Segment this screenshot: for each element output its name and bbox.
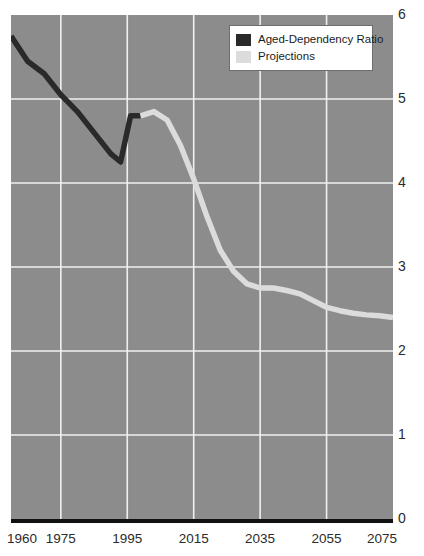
- series-lines: [11, 15, 393, 519]
- y-axis-labels: 0123456: [398, 0, 424, 556]
- x-axis-tick-label: 1960: [7, 532, 37, 546]
- x-axis-tick-label: 2015: [179, 532, 209, 546]
- x-axis-tick-label: 1975: [46, 532, 76, 546]
- y-axis-tick-label: 6: [398, 7, 418, 21]
- y-axis-tick-label: 0: [398, 511, 418, 525]
- legend-item-label: Aged-Dependency Ratio: [258, 34, 383, 46]
- x-axis-baseline: [11, 519, 393, 523]
- x-axis-tick-label: 2075: [367, 532, 397, 546]
- x-axis-tick-label: 2055: [312, 532, 342, 546]
- legend-item-aged-dependency-ratio: Aged-Dependency Ratio: [236, 31, 365, 48]
- x-axis-tick-label: 2035: [245, 532, 275, 546]
- y-axis-tick-label: 2: [398, 343, 418, 357]
- legend-swatch-icon: [236, 34, 251, 46]
- x-axis-labels: 1960197519952015203520552075: [0, 532, 424, 556]
- y-axis-tick-label: 3: [398, 259, 418, 273]
- legend-item-projections: Projections: [236, 48, 365, 65]
- x-axis-tick-label: 1995: [112, 532, 142, 546]
- legend-swatch-icon: [236, 51, 251, 63]
- chart-container: 0123456 1960197519952015203520552075 Age…: [0, 0, 424, 556]
- y-axis-tick-label: 1: [398, 427, 418, 441]
- y-axis-tick-label: 4: [398, 175, 418, 189]
- plot-area: [11, 15, 393, 519]
- chart-legend: Aged-Dependency Ratio Projections: [229, 25, 373, 71]
- legend-item-label: Projections: [258, 51, 315, 63]
- y-axis-tick-label: 5: [398, 91, 418, 105]
